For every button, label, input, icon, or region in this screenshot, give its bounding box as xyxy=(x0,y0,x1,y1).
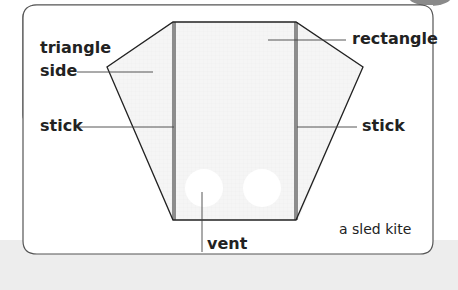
label-triangle: triangle xyxy=(40,38,111,57)
stick-right xyxy=(294,22,298,220)
label-side: side xyxy=(40,61,77,80)
kite-illustration: triangle side rectangle stick stick vent… xyxy=(0,0,458,290)
label-stick-left: stick xyxy=(40,116,83,135)
label-vent: vent xyxy=(207,234,248,253)
label-rectangle: rectangle xyxy=(352,29,438,48)
vent-left xyxy=(185,169,223,207)
label-stick-right: stick xyxy=(362,116,405,135)
stick-left xyxy=(172,22,176,220)
vent-right xyxy=(243,169,281,207)
diagram-caption: a sled kite xyxy=(339,221,411,237)
